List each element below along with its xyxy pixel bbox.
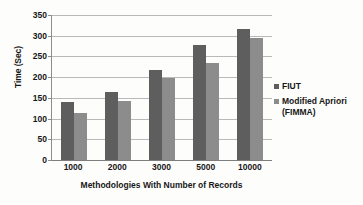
bars-layer — [52, 15, 272, 160]
bar — [206, 63, 219, 160]
y-axis-tick-label: 300 — [20, 31, 47, 40]
y-axis-tick-label: 150 — [20, 94, 47, 103]
y-axis-tick-label: 0 — [20, 156, 47, 165]
legend-entry: Modified Apriori (FIMMA) — [274, 96, 363, 118]
axis-baseline — [52, 160, 272, 161]
bar-group — [228, 15, 272, 160]
legend-entry: FIUT — [274, 81, 363, 92]
y-axis-tick-label: 100 — [20, 114, 47, 123]
bar — [193, 45, 206, 160]
bar — [118, 101, 131, 160]
y-axis-tick-label: 50 — [20, 135, 47, 144]
bar — [74, 113, 87, 160]
x-axis-tick-label: 1000 — [51, 162, 95, 172]
y-axis-tick-label: 350 — [20, 11, 47, 20]
y-axis-tick-label: 250 — [20, 52, 47, 61]
legend-swatch-icon — [274, 84, 279, 89]
bar-group — [52, 15, 96, 160]
legend-swatch-icon — [274, 99, 279, 104]
bar — [61, 102, 74, 160]
x-axis-title: Methodologies With Number of Records — [51, 180, 272, 190]
bar — [250, 38, 263, 160]
bar-group — [96, 15, 140, 160]
bar — [105, 92, 118, 160]
bar-group — [184, 15, 228, 160]
bar-group — [140, 15, 184, 160]
bar-chart-figure: Time (Sec) 050100150200250300350 1000200… — [0, 0, 363, 205]
bar — [162, 78, 175, 160]
bar — [149, 70, 162, 160]
legend-label: Modified Apriori (FIMMA) — [282, 96, 347, 118]
plot-area — [51, 15, 272, 160]
chart-legend: FIUTModified Apriori (FIMMA) — [274, 81, 363, 122]
y-axis-tick-mark — [48, 160, 52, 161]
y-axis-tick-label: 200 — [20, 73, 47, 82]
x-axis-tick-labels: 100020003000500010000 — [51, 162, 272, 172]
x-axis-tick-label: 2000 — [95, 162, 139, 172]
legend-label: FIUT — [282, 81, 301, 92]
bar — [237, 29, 250, 160]
y-axis-tick-labels: 050100150200250300350 — [20, 10, 47, 160]
x-axis-tick-label: 3000 — [139, 162, 183, 172]
x-axis-tick-label: 10000 — [228, 162, 272, 172]
x-axis-tick-label: 5000 — [184, 162, 228, 172]
